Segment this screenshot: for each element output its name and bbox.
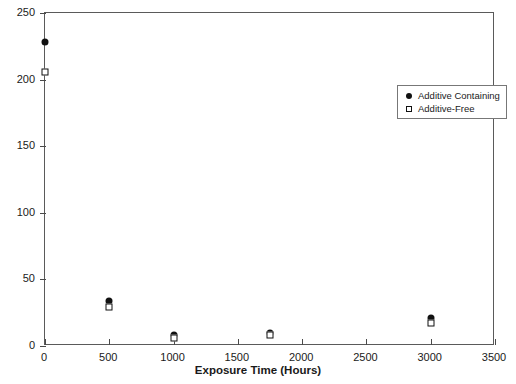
data-point-filled-circle [42, 39, 49, 46]
y-axis-tick [40, 213, 46, 214]
data-point-open-square [267, 332, 274, 339]
x-axis-tick-label: 3500 [482, 351, 506, 363]
x-axis-tick [366, 339, 367, 345]
y-axis-tick [40, 279, 46, 280]
legend-item-label: Additive-Free [418, 103, 475, 114]
legend-filled-circle-icon [403, 93, 415, 99]
x-axis-tick [431, 339, 432, 345]
x-axis-label: Exposure Time (Hours) [0, 364, 516, 376]
x-axis-tick [109, 339, 110, 345]
y-axis-tick-label: 250 [0, 6, 35, 18]
y-axis-tick [40, 13, 46, 14]
y-axis-tick [40, 80, 46, 81]
x-axis-tick-label: 500 [99, 351, 117, 363]
x-axis-tick-label: 1000 [160, 351, 184, 363]
x-axis-tick [495, 339, 496, 345]
data-point-open-square [106, 304, 113, 311]
x-axis-tick [45, 339, 46, 345]
legend-item: Additive Containing [403, 89, 500, 102]
y-axis-tick-label: 100 [0, 206, 35, 218]
x-axis-tick-label: 1500 [225, 351, 249, 363]
y-axis-tick [40, 146, 46, 147]
y-axis-tick-label: 150 [0, 139, 35, 151]
x-axis-tick [238, 339, 239, 345]
y-axis-tick-label: 0 [0, 339, 35, 351]
legend-item-label: Additive Containing [418, 90, 500, 101]
data-point-open-square [427, 320, 434, 327]
x-axis-tick-label: 3000 [417, 351, 441, 363]
y-axis-tick-label: 50 [0, 272, 35, 284]
x-axis-tick-label: 2500 [353, 351, 377, 363]
y-axis-label-container: Fracture Energy (J/m²) [0, 0, 22, 345]
plot-area: Additive ContainingAdditive-Free [44, 12, 494, 345]
x-axis-tick-label: 0 [41, 351, 47, 363]
y-axis-tick-label: 200 [0, 73, 35, 85]
legend-item: Additive-Free [403, 102, 500, 115]
data-point-open-square [170, 335, 177, 342]
chart-legend: Additive ContainingAdditive-Free [397, 85, 507, 119]
y-axis-tick [40, 346, 46, 347]
x-axis-tick-label: 2000 [289, 351, 313, 363]
chart-figure: Fracture Energy (J/m²) 050100150200250 0… [0, 0, 516, 384]
data-point-open-square [42, 68, 49, 75]
legend-open-square-icon [403, 106, 415, 112]
x-axis-tick [302, 339, 303, 345]
